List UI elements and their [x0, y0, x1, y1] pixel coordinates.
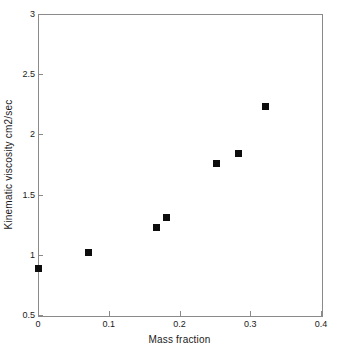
x-axis-tick: [321, 311, 322, 316]
x-axis-tick-label: 0.4: [306, 320, 336, 329]
y-axis-tick: [38, 134, 43, 135]
x-axis-title: Mass fraction: [38, 334, 321, 345]
x-axis-tick: [38, 311, 39, 316]
plot-area: [38, 14, 323, 317]
x-axis-tick-label: 0.1: [94, 320, 124, 329]
x-axis-tick-label: 0: [23, 320, 53, 329]
y-axis-tick: [38, 14, 43, 15]
x-axis-tick-label: 0.2: [165, 320, 195, 329]
scatter-chart-figure: 32.521.510.500.10.20.30.4 Kinematic visc…: [0, 0, 338, 352]
x-axis-tick-label: 0.3: [235, 320, 265, 329]
y-axis-title: Kinematic viscosity cm2/sec: [2, 14, 16, 315]
y-axis-tick: [38, 195, 43, 196]
x-axis-tick: [250, 311, 251, 316]
y-axis-tick: [38, 255, 43, 256]
x-axis-tick: [109, 311, 110, 316]
x-axis-tick: [180, 311, 181, 316]
y-axis-tick: [38, 74, 43, 75]
